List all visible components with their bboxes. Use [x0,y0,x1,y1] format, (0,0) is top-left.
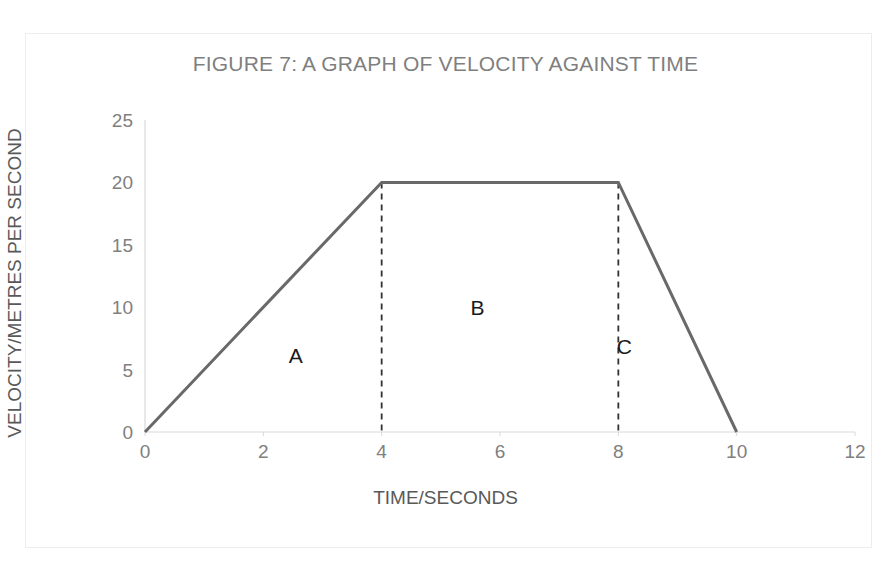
x-tick-label: 2 [233,442,293,461]
region-labels: ABC [145,120,855,432]
y-tick-label: 15 [91,235,133,254]
x-tick-labels: 024681012 [145,442,855,472]
y-tick-label: 5 [91,360,133,379]
y-tick-label: 25 [91,111,133,130]
x-tick-label: 8 [588,442,648,461]
x-tick-label: 4 [352,442,412,461]
plot-area: 0510152025 024681012 ABC [145,120,855,432]
x-tick-label: 10 [707,442,767,461]
y-tick-label: 10 [91,298,133,317]
chart-title: FIGURE 7: A GRAPH OF VELOCITY AGAINST TI… [0,52,891,76]
x-axis-title: TIME/SECONDS [0,487,891,509]
y-tick-label: 0 [91,423,133,442]
figure-container: FIGURE 7: A GRAPH OF VELOCITY AGAINST TI… [0,0,891,580]
x-tick-label: 6 [470,442,530,461]
y-tick-label: 20 [91,173,133,192]
region-label-b: B [471,297,485,318]
x-tick-label: 12 [825,442,885,461]
x-tick-label: 0 [115,442,175,461]
region-label-a: A [289,344,303,365]
region-label-c: C [617,335,632,356]
